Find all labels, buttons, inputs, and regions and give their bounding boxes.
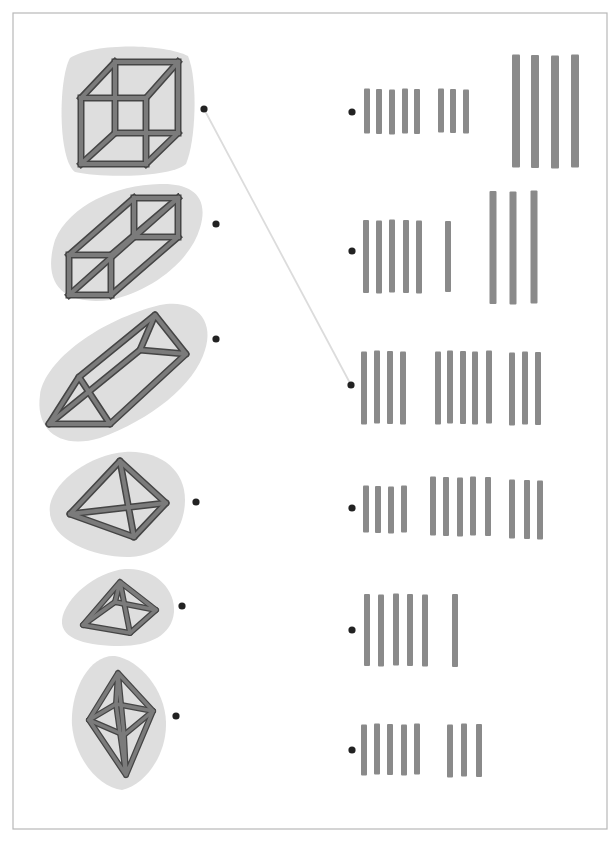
tally-mark	[485, 477, 491, 536]
octahedron-shape	[72, 656, 180, 790]
tally-column	[347, 54, 579, 777]
tally-mark	[531, 55, 539, 168]
tally-mark	[510, 192, 517, 305]
tally-mark	[447, 725, 453, 778]
tally-group	[361, 723, 420, 775]
tally-mark	[472, 352, 478, 425]
tally-mark	[447, 350, 453, 423]
tally-mark	[571, 54, 579, 167]
triangular-prism-shape	[39, 304, 219, 442]
tally-row-3	[347, 350, 541, 425]
tetrahedron-shape	[50, 452, 200, 557]
tally-group	[512, 54, 579, 168]
tally-mark	[435, 352, 441, 425]
tally-group	[363, 219, 422, 293]
tally-mark	[374, 723, 380, 774]
tally-mark	[374, 350, 380, 423]
tally-mark	[463, 90, 469, 134]
tally-mark	[512, 54, 520, 167]
octahedron-match-dot[interactable]	[172, 712, 179, 719]
tally-mark	[445, 221, 451, 292]
tally-mark	[389, 219, 395, 292]
rectangular-prism-match-dot[interactable]	[212, 220, 219, 227]
tally-mark	[364, 88, 370, 133]
tally-mark	[376, 89, 382, 134]
tally-row-1	[348, 54, 579, 168]
tally-mark	[522, 351, 528, 424]
tally-mark	[401, 725, 407, 776]
tally-group	[364, 88, 420, 134]
tally-group	[447, 723, 482, 777]
tally-mark	[387, 724, 393, 775]
tally-match-dot[interactable]	[348, 746, 355, 753]
tally-group	[438, 88, 469, 133]
tally-mark	[470, 476, 476, 535]
square-pyramid-shape	[62, 569, 186, 646]
tally-mark	[414, 723, 420, 774]
tally-mark	[535, 352, 541, 425]
tally-mark	[422, 595, 428, 667]
tally-mark	[393, 593, 399, 665]
tally-mark	[407, 594, 413, 666]
tally-group	[509, 479, 543, 539]
tally-mark	[486, 350, 492, 423]
tally-group	[430, 476, 491, 536]
tally-mark	[452, 594, 458, 667]
tetrahedron-match-dot[interactable]	[192, 498, 199, 505]
tally-row-4	[348, 476, 543, 539]
tally-match-dot[interactable]	[348, 247, 355, 254]
tally-group	[364, 593, 428, 666]
tally-mark	[388, 487, 394, 534]
tally-mark	[450, 89, 456, 133]
tally-mark	[375, 486, 381, 533]
tally-group	[509, 351, 541, 425]
tally-mark	[400, 352, 406, 425]
tally-mark	[414, 89, 420, 134]
tally-mark	[509, 353, 515, 426]
tally-mark	[430, 476, 436, 535]
cube-shape	[62, 47, 208, 176]
tally-group	[445, 221, 451, 292]
tally-mark	[461, 723, 467, 776]
tally-mark	[537, 481, 543, 540]
tally-group	[363, 485, 407, 533]
tally-mark	[443, 477, 449, 536]
tally-mark	[363, 485, 369, 532]
tally-mark	[364, 594, 370, 666]
tally-row-5	[348, 593, 458, 667]
tally-group	[490, 190, 538, 304]
tally-group	[361, 350, 406, 424]
tally-mark	[378, 595, 384, 667]
tally-group	[435, 350, 492, 424]
tally-mark	[524, 480, 530, 539]
tally-row-2	[348, 190, 537, 304]
tally-mark	[403, 220, 409, 293]
cube-match-dot[interactable]	[200, 105, 207, 112]
tally-mark	[389, 90, 395, 135]
tally-mark	[490, 191, 497, 304]
tally-mark	[361, 725, 367, 776]
tally-row-6	[348, 723, 482, 777]
tally-mark	[476, 724, 482, 777]
tally-group	[452, 594, 458, 667]
triangular-prism-match-dot[interactable]	[212, 335, 219, 342]
tally-mark	[509, 479, 515, 538]
tally-mark	[363, 220, 369, 293]
tally-match-dot[interactable]	[347, 381, 354, 388]
tally-match-dot[interactable]	[348, 108, 355, 115]
tally-mark	[402, 88, 408, 133]
tally-match-dot[interactable]	[348, 626, 355, 633]
tally-mark	[460, 351, 466, 424]
matching-worksheet	[0, 0, 616, 842]
tally-mark	[438, 88, 444, 132]
tally-match-dot[interactable]	[348, 504, 355, 511]
tally-mark	[457, 478, 463, 537]
square-pyramid-match-dot[interactable]	[178, 602, 185, 609]
tally-mark	[416, 221, 422, 294]
tally-mark	[531, 190, 538, 303]
tally-mark	[551, 56, 559, 169]
match-line-cube[interactable]	[204, 109, 351, 385]
tally-mark	[387, 351, 393, 424]
tally-mark	[376, 221, 382, 294]
tally-mark	[361, 352, 367, 425]
